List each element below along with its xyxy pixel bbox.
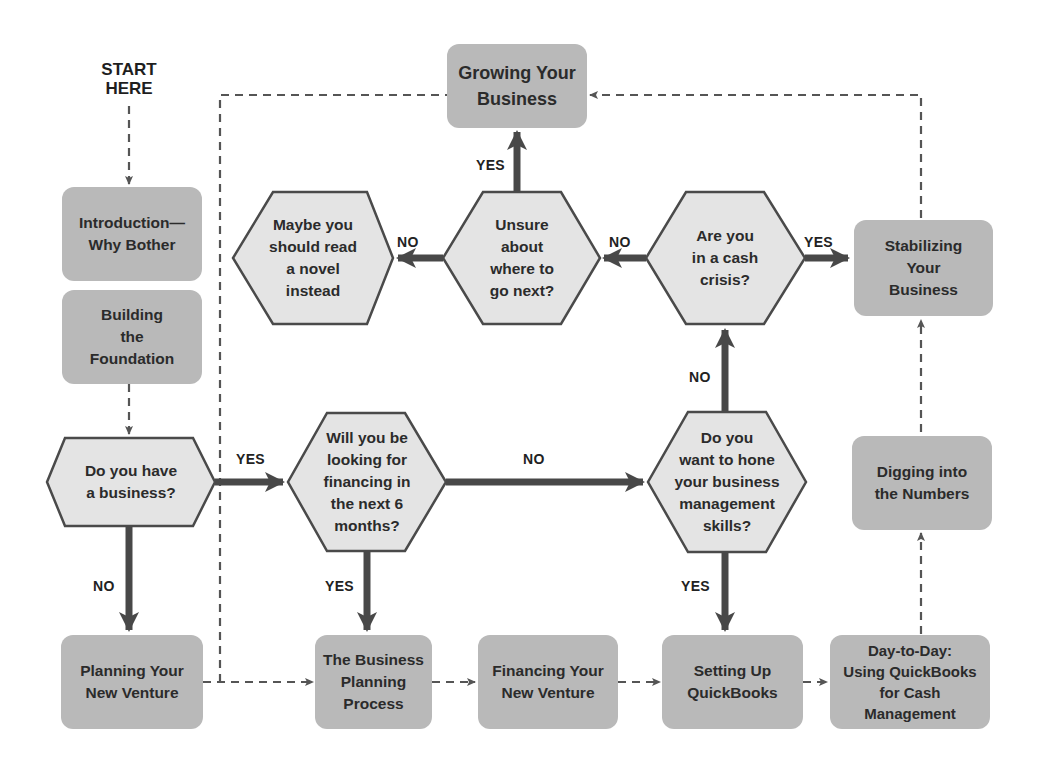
label-cash-no: NO [609,234,631,250]
decision-novel[interactable]: Maybe you should read a novel instead [248,192,378,324]
label-financing-yes: YES [325,578,354,594]
box-setting-up-quickbooks[interactable]: Setting Up QuickBooks [662,635,803,729]
label-have-yes: YES [236,451,265,467]
box-building-foundation[interactable]: Building the Foundation [62,290,202,384]
box-business-planning-process[interactable]: The Business Planning Process [315,635,432,729]
decision-hone-skills[interactable]: Do you want to hone your business manage… [660,412,794,552]
box-digging-numbers[interactable]: Digging into the Numbers [852,436,992,530]
label-have-no: NO [93,578,115,594]
label-hone-no: NO [689,369,711,385]
label-hone-yes: YES [681,578,710,594]
box-growing-your-business[interactable]: Growing Your Business [447,44,587,128]
decision-financing-6-months[interactable]: Will you be looking for financing in the… [300,413,434,551]
label-unsure-no: NO [397,234,419,250]
flowchart-canvas: START HERE Growing Your Business Introdu… [0,0,1037,770]
decision-cash-crisis[interactable]: Are you in a cash crisis? [660,192,790,324]
decision-unsure[interactable]: Unsure about where to go next? [458,192,586,324]
box-introduction[interactable]: Introduction— Why Bother [62,187,202,281]
label-cash-yes: YES [804,234,833,250]
box-day-to-day[interactable]: Day-to-Day: Using QuickBooks for Cash Ma… [830,635,990,729]
box-financing-new-venture[interactable]: Financing Your New Venture [478,635,618,729]
box-planning-new-venture[interactable]: Planning Your New Venture [61,635,203,729]
label-unsure-yes: YES [476,157,505,173]
decision-have-business[interactable]: Do you have a business? [58,438,204,526]
start-here-label: START HERE [84,60,174,98]
label-financing-no: NO [523,451,545,467]
box-stabilizing[interactable]: Stabilizing Your Business [854,220,993,316]
